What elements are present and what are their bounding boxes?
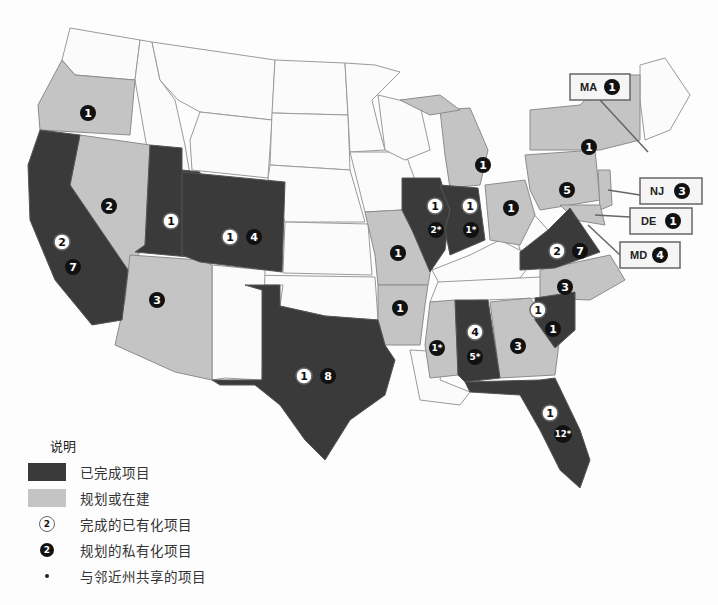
callout-ma-label: MA [580,81,597,93]
state-washington[interactable] [62,28,140,80]
marker-mississippi-planned[interactable]: 1* [429,340,445,356]
callout-ma-value: 1 [608,81,616,94]
completed-swatch-icon [28,463,66,481]
marker-nevada-planned[interactable]: 2 [101,198,117,214]
marker-value: 1 [300,370,308,383]
black-marker-icon: 2 [40,543,54,557]
marker-virginia-completed[interactable]: 2 [549,243,565,259]
marker-illinois-completed[interactable]: 1 [427,198,443,214]
callout-nj-label: NJ [650,185,664,197]
marker-value: 1 [167,215,175,228]
marker-indiana-completed[interactable]: 1 [462,198,478,214]
white-marker-icon: 2 [39,516,55,532]
state-colorado[interactable] [182,172,285,272]
marker-florida-planned[interactable]: 12* [554,425,572,443]
callout-de-label: DE [641,215,656,227]
marker-value: 7 [69,261,77,274]
marker-value: 1 [394,247,402,260]
marker-value: 1 [507,202,515,215]
state-mississippi[interactable] [425,300,458,378]
callout-ma[interactable]: MA 1 [570,74,630,100]
legend-label: 完成的已有化项目 [80,514,192,534]
marker-value: 1 [226,231,234,244]
marker-value: 1* [432,343,443,353]
state-michigan[interactable] [440,108,488,188]
marker-value: 1 [534,304,542,317]
callout-de[interactable]: DE 1 [630,208,692,234]
marker-indiana-planned[interactable]: 1* [463,222,479,238]
marker-illinois-planned[interactable]: 2* [428,222,444,238]
marker-pennsylvania-planned[interactable]: 5 [559,182,575,198]
marker-value: 1 [431,200,439,213]
legend-item-planned: 规划或在建 [28,485,348,511]
callout-nj[interactable]: NJ 3 [640,178,702,204]
marker-michigan-planned[interactable]: 1 [475,157,491,173]
marker-south-carolina-planned[interactable]: 1 [545,321,561,337]
marker-colorado-completed[interactable]: 1 [222,229,238,245]
legend-item-white-marker: 2 完成的已有化项目 [28,511,348,537]
marker-value: 1 [396,302,404,315]
legend-label: 已完成项目 [80,462,150,482]
state-north-dakota[interactable] [272,60,348,115]
marker-value: 7 [576,245,584,258]
marker-value: 3 [153,294,161,307]
state-south-dakota[interactable] [270,113,350,170]
callout-md[interactable]: MD 4 [620,242,680,268]
callout-md-label: MD [630,249,647,261]
state-kansas[interactable] [283,222,372,275]
marker-value: 1 [84,107,92,120]
state-pennsylvania[interactable] [525,150,600,210]
marker-missouri-planned[interactable]: 1 [390,245,406,261]
legend-label: 规划或在建 [80,488,150,508]
state-arizona[interactable] [115,255,212,380]
marker-value: 4 [471,326,479,339]
marker-value: 1 [549,323,557,336]
marker-colorado-planned[interactable]: 4 [246,229,262,245]
marker-california-completed[interactable]: 2 [54,234,70,250]
legend-label: 与邻近州共享的项目 [80,566,206,586]
marker-alabama-completed[interactable]: 4 [467,324,483,340]
legend-item-black-marker: 2 规划的私有化项目 [28,537,348,563]
state-wyoming[interactable] [190,112,272,178]
marker-value: 12* [555,429,572,439]
marker-value: 3 [514,340,522,353]
marker-alabama-planned[interactable]: 5* [467,349,483,365]
legend-label: 规划的私有化项目 [80,540,192,560]
legend-item-completed: 已完成项目 [28,459,348,485]
legend-item-shared: 与邻近州共享的项目 [28,563,348,589]
asterisk-dot-icon [45,574,49,578]
marker-ohio-planned[interactable]: 1 [503,200,519,216]
marker-value: 5 [563,184,571,197]
marker-new-york-planned[interactable]: 1 [581,139,597,155]
legend-title: 说明 [50,436,348,455]
marker-virginia-planned[interactable]: 7 [572,243,588,259]
marker-oregon-planned[interactable]: 1 [80,105,96,121]
state-new-england[interactable] [640,58,690,140]
marker-california-planned[interactable]: 7 [65,259,81,275]
state-new-mexico[interactable] [212,265,265,380]
marker-texas-completed[interactable]: 1 [296,368,312,384]
marker-value: 8 [324,370,332,383]
marker-value: 2 [553,245,561,258]
marker-value: 1 [466,200,474,213]
marker-arizona-planned[interactable]: 3 [149,292,165,308]
planned-swatch-icon [28,489,66,507]
marker-north-carolina-planned[interactable]: 3 [557,279,573,295]
marker-south-carolina-completed[interactable]: 1 [530,302,546,318]
marker-value: 3 [561,281,569,294]
marker-texas-planned[interactable]: 8 [320,368,336,384]
marker-georgia-planned[interactable]: 3 [510,338,526,354]
marker-florida-completed[interactable]: 1 [542,405,558,421]
marker-value: 1 [585,141,593,154]
marker-value: 2 [105,200,113,213]
marker-value: 2 [58,236,66,249]
marker-value: 1 [479,159,487,172]
callout-nj-value: 3 [678,185,686,198]
marker-value: 5* [470,352,481,362]
marker-value: 2* [431,225,442,235]
marker-arkansas-planned[interactable]: 1 [392,300,408,316]
legend: 说明 已完成项目 规划或在建 2 完成的已有化项目 2 规划的私有化项目 与邻近… [28,436,348,589]
marker-value: 1* [466,225,477,235]
marker-utah-completed[interactable]: 1 [163,213,179,229]
callout-md-value: 4 [656,249,664,262]
